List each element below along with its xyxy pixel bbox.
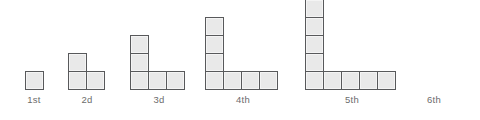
tile bbox=[323, 71, 342, 90]
tile bbox=[68, 53, 87, 72]
tile bbox=[305, 53, 324, 72]
tile bbox=[148, 71, 167, 90]
tile bbox=[305, 17, 324, 36]
tile bbox=[130, 53, 149, 72]
tile bbox=[205, 71, 224, 90]
figure-label-1: 1st bbox=[4, 94, 64, 105]
figure-label-4: 4th bbox=[213, 94, 273, 105]
tile bbox=[341, 71, 360, 90]
tile bbox=[205, 17, 224, 36]
tile bbox=[305, 35, 324, 54]
tile bbox=[205, 35, 224, 54]
figure-label-5: 5th bbox=[322, 94, 382, 105]
figure-label-3: 3d bbox=[129, 94, 189, 105]
tile bbox=[259, 71, 278, 90]
pattern-sequence-figure: 1st2d3d4th5th6th bbox=[0, 0, 480, 120]
tile bbox=[130, 35, 149, 54]
tile bbox=[223, 71, 242, 90]
tile bbox=[86, 71, 105, 90]
tile bbox=[25, 71, 44, 90]
figure-label-6: 6th bbox=[404, 94, 464, 105]
tile bbox=[305, 0, 324, 18]
figure-label-2: 2d bbox=[57, 94, 117, 105]
tile bbox=[359, 71, 378, 90]
tile bbox=[166, 71, 185, 90]
tile bbox=[68, 71, 87, 90]
tile bbox=[130, 71, 149, 90]
tile bbox=[241, 71, 260, 90]
tile bbox=[377, 71, 396, 90]
tile bbox=[305, 71, 324, 90]
tile bbox=[205, 53, 224, 72]
